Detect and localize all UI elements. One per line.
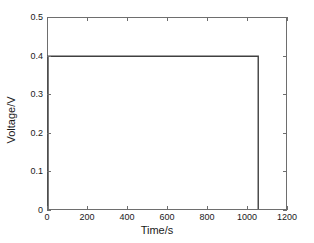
x-tick-mark-top bbox=[167, 17, 168, 21]
y-tick-mark bbox=[47, 56, 51, 57]
x-tick-mark bbox=[87, 206, 88, 210]
x-tick-label: 200 bbox=[79, 213, 94, 222]
y-tick-mark bbox=[47, 171, 51, 172]
x-tick-mark bbox=[207, 206, 208, 210]
x-axis-label: Time/s bbox=[0, 224, 314, 236]
x-tick-mark-top bbox=[287, 17, 288, 21]
y-tick-label: 0.2 bbox=[19, 128, 43, 137]
x-tick-mark bbox=[167, 206, 168, 210]
voltage-series-line bbox=[48, 56, 258, 209]
y-tick-mark-right bbox=[283, 17, 287, 18]
y-tick-label: 0 bbox=[19, 206, 43, 215]
chart-figure: 02004006008001000120000.10.20.30.40.5 Ti… bbox=[0, 0, 314, 243]
y-tick-label: 0.1 bbox=[19, 167, 43, 176]
x-tick-label: 400 bbox=[119, 213, 134, 222]
x-tick-mark bbox=[247, 206, 248, 210]
y-tick-label: 0.5 bbox=[19, 13, 43, 22]
x-tick-mark bbox=[287, 206, 288, 210]
x-tick-mark-top bbox=[127, 17, 128, 21]
plot-area bbox=[47, 17, 287, 210]
x-tick-mark-top bbox=[207, 17, 208, 21]
x-tick-label: 1000 bbox=[237, 213, 257, 222]
y-tick-mark-right bbox=[283, 133, 287, 134]
y-tick-mark-right bbox=[283, 94, 287, 95]
y-tick-mark-right bbox=[283, 171, 287, 172]
x-tick-mark bbox=[127, 206, 128, 210]
y-tick-label: 0.4 bbox=[19, 51, 43, 60]
x-tick-mark-top bbox=[247, 17, 248, 21]
y-tick-mark bbox=[47, 210, 51, 211]
data-series-canvas bbox=[48, 18, 286, 209]
x-tick-label: 800 bbox=[199, 213, 214, 222]
x-tick-mark-top bbox=[87, 17, 88, 21]
y-tick-mark bbox=[47, 94, 51, 95]
y-tick-label: 0.3 bbox=[19, 90, 43, 99]
y-tick-mark bbox=[47, 17, 51, 18]
y-tick-mark bbox=[47, 133, 51, 134]
y-tick-mark-right bbox=[283, 210, 287, 211]
y-axis-label: Voltage/V bbox=[5, 80, 17, 160]
x-tick-label: 1200 bbox=[277, 213, 297, 222]
x-tick-label: 0 bbox=[44, 213, 49, 222]
x-tick-label: 600 bbox=[159, 213, 174, 222]
y-tick-mark-right bbox=[283, 56, 287, 57]
